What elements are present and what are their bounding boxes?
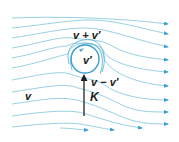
streamlines-canvas xyxy=(0,0,179,142)
label-v-plus-vprime: v + v′ xyxy=(73,30,100,41)
label-vprime: v′ xyxy=(83,55,92,66)
streamline xyxy=(12,123,114,130)
label-v-minus-vprime: v − v′ xyxy=(91,77,118,88)
label-freestream-v: v xyxy=(25,91,31,102)
rotation-arrow-icon xyxy=(79,48,84,52)
streamline xyxy=(60,128,88,130)
magnus-flow-diagram: v + v′ v′ v − v′ K v xyxy=(0,0,179,142)
label-force-k: K xyxy=(90,91,99,103)
streamline xyxy=(12,17,168,24)
